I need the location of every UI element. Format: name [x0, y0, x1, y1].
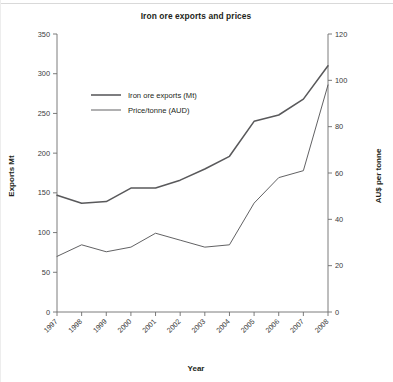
right-tick-label: 40 — [335, 215, 343, 224]
left-axis-title: Exports Mt — [7, 155, 16, 197]
right-axis-ticks: 020406080100120 — [328, 30, 347, 317]
left-tick-label: 250 — [38, 109, 50, 118]
right-axis-title: AU$ per tonne — [374, 148, 383, 203]
right-tick-label: 0 — [335, 308, 339, 317]
left-tick-label: 350 — [38, 30, 50, 39]
x-tick-label: 1998 — [66, 317, 84, 335]
figure-root: Iron ore exports and prices 050100150200… — [0, 0, 393, 382]
left-tick-label: 50 — [42, 268, 50, 277]
chart-legend: Iron ore exports (Mt)Price/tonne (AUD) — [91, 91, 197, 115]
left-tick-label: 0 — [46, 308, 50, 317]
right-tick-label: 120 — [335, 30, 347, 39]
right-tick-label: 20 — [335, 261, 343, 270]
left-tick-label: 100 — [38, 228, 50, 237]
x-tick-label: 2002 — [165, 317, 183, 335]
x-axis-title: Year — [188, 364, 205, 373]
x-tick-label: 2004 — [214, 317, 232, 335]
series-line-iron-ore-exports — [57, 66, 328, 203]
x-tick-label: 2006 — [263, 317, 281, 335]
right-tick-label: 60 — [335, 169, 343, 178]
x-tick-label: 1999 — [91, 317, 109, 335]
legend-label-price: Price/tonne (AUD) — [128, 106, 190, 115]
right-tick-label: 80 — [335, 122, 343, 131]
left-tick-label: 200 — [38, 149, 50, 158]
iron-ore-exports-and-prices-chart: Iron ore exports and prices 050100150200… — [0, 0, 393, 382]
x-tick-label: 2008 — [313, 317, 331, 335]
left-tick-label: 300 — [38, 69, 50, 78]
x-tick-label: 2001 — [140, 317, 158, 335]
x-tick-label: 2003 — [190, 317, 208, 335]
x-tick-label: 1997 — [42, 317, 60, 335]
series-line-price-per-tonne — [57, 85, 328, 256]
left-tick-label: 150 — [38, 188, 50, 197]
x-tick-label: 2007 — [288, 317, 306, 335]
legend-label-exports: Iron ore exports (Mt) — [128, 91, 197, 100]
left-axis-ticks: 050100150200250300350 — [38, 30, 57, 317]
x-axis-ticks: 1997199819992000200120022003200420052006… — [42, 312, 331, 335]
right-tick-label: 100 — [335, 76, 347, 85]
x-tick-label: 2000 — [116, 317, 134, 335]
x-tick-label: 2005 — [239, 317, 257, 335]
chart-title: Iron ore exports and prices — [141, 11, 252, 21]
